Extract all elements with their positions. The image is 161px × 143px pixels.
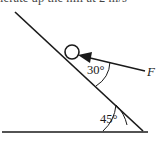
force-label-F: F	[147, 64, 155, 80]
diagram-svg	[0, 0, 161, 143]
incline-line	[15, 12, 143, 131]
ball-circle	[65, 45, 79, 59]
angle-label-30: 30°	[87, 63, 105, 78]
angle-label-45: 45°	[100, 112, 118, 127]
force-arrow-head	[78, 52, 92, 63]
physics-diagram-figure: lerate up the hill at 2 m/s 30° 45° F	[0, 0, 161, 143]
